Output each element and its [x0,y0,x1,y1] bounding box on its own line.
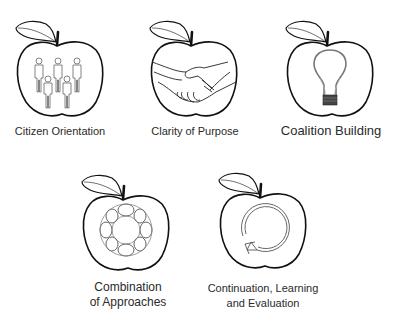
label-clarity-of-purpose: Clarity of Purpose [151,124,238,139]
label-line: Combination [90,280,167,295]
apple-icon [74,160,184,270]
apple-continuation-learning-evaluation [211,158,321,268]
label-line: Clarity of Purpose [151,125,238,137]
apple-icon [278,6,388,116]
apple-combination-of-approaches [74,160,184,270]
label-citizen-orientation: Citizen Orientation [15,124,106,139]
label-combination-of-approaches: Combination of Approaches [90,280,167,310]
label-line: Continuation, Learning [208,281,319,296]
label-line: Citizen Orientation [15,125,106,137]
label-continuation-learning-evaluation: Continuation, Learning and Evaluation [208,281,319,311]
apple-clarity-of-purpose [142,6,252,116]
label-coalition-building: Coalition Building [281,123,381,139]
apple-icon [8,6,118,116]
label-line: Coalition Building [281,123,381,138]
apple-icon [142,6,252,116]
label-line: and Evaluation [208,296,319,311]
apple-icon [211,158,321,268]
apple-coalition-building [278,6,388,116]
apple-citizen-orientation [8,6,118,116]
label-line: of Approaches [90,295,167,310]
